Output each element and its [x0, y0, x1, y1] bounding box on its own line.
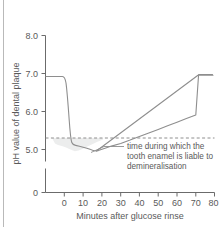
shaded-demineralisation-region	[52, 138, 103, 151]
y-tick-label-8: 8.0	[25, 31, 38, 41]
annotation-line-1: time during which the	[127, 142, 205, 151]
x-axis-title: Minutes after glucose rinse	[76, 211, 184, 221]
ph-plaque-line-chart: 8.0 7.0 6.0 5.0 0 0 10 20 30 40 50 60 70…	[0, 0, 220, 227]
page-left-rule	[3, 0, 4, 227]
x-tick-label-30: 30	[116, 198, 126, 208]
y-tick-label-7: 7.0	[25, 69, 38, 79]
annotation-line-2: tooth enamel is liable to	[127, 152, 213, 161]
x-tick-label-10: 10	[78, 198, 88, 208]
x-tick-label-0: 0	[62, 198, 67, 208]
x-tick-label-60: 60	[172, 198, 182, 208]
x-tick-label-70: 70	[191, 198, 201, 208]
x-tick-label-40: 40	[134, 198, 144, 208]
y-tick-label-0: 0	[33, 188, 38, 198]
annotation-line-3: demineralisation	[127, 162, 187, 171]
chart-figure: 8.0 7.0 6.0 5.0 0 0 10 20 30 40 50 60 70…	[0, 0, 220, 227]
x-tick-label-50: 50	[153, 198, 163, 208]
y-tick-label-6: 6.0	[25, 107, 38, 117]
y-axis-title: pH value of dental plaque	[11, 62, 21, 164]
x-tick-label-20: 20	[97, 198, 107, 208]
ph-curve	[46, 75, 213, 152]
y-tick-label-5: 5.0	[25, 145, 38, 155]
x-tick-label-80: 80	[208, 198, 218, 208]
